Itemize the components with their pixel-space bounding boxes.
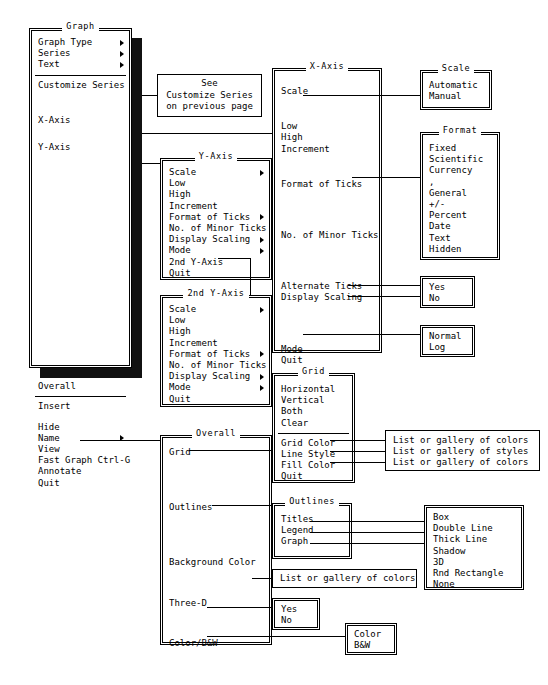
menu-item-format-date[interactable]: Date (422, 221, 498, 232)
menu-item-format-scientific[interactable]: Scientific (422, 154, 498, 165)
menu-three-d-yesno[interactable]: Yes No (272, 598, 320, 630)
menu-item-text[interactable]: Text (31, 59, 130, 70)
menu-item-x-increment[interactable]: Increment (274, 144, 380, 155)
menu-2nd-y-axis[interactable]: 2nd Y-Axis Scale Low High Increment Form… (160, 295, 272, 407)
menu-item-outlines-titles[interactable]: Titles (274, 514, 350, 525)
menu-item-y2-quit[interactable]: Quit (162, 394, 270, 405)
menu-item-alt-ticks-yes[interactable]: Yes (422, 282, 473, 293)
menu-item-y-scale[interactable]: Scale (162, 167, 270, 178)
menu-item-x-low[interactable]: Low (274, 121, 380, 132)
menu-item-y-axis[interactable]: Y-Axis (31, 142, 130, 153)
menu-item-outline-shadow[interactable]: Shadow (426, 546, 522, 557)
menu-item-three-d-yes[interactable]: Yes (274, 604, 318, 615)
menu-item-y2-scale[interactable]: Scale (162, 304, 270, 315)
menu-item-format-currency[interactable]: Currency (422, 165, 498, 176)
menu-mode-normal-log[interactable]: Normal Log (420, 325, 475, 357)
menu-scale[interactable]: Scale Automatic Manual (420, 70, 492, 110)
menu-item-y-display-scaling[interactable]: Display Scaling (162, 234, 270, 245)
grid-target-fill-colors[interactable]: List or gallery of colors (386, 457, 539, 468)
menu-item-customize-series[interactable]: Customize Series (31, 80, 130, 91)
menu-item-outline-none[interactable]: None (426, 579, 522, 590)
menu-item-x-display-scaling[interactable]: Display Scaling (274, 292, 380, 303)
menu-format[interactable]: Format Fixed Scientific Currency , Gener… (420, 132, 500, 260)
menu-item-y-minor-ticks[interactable]: No. of Minor Ticks (162, 223, 270, 234)
menu-item-hide[interactable]: Hide (31, 422, 130, 433)
menu-item-three-d-no[interactable]: No (274, 615, 318, 626)
menu-item-grid-vertical[interactable]: Vertical (274, 395, 353, 406)
connector-overall-colorbw (207, 636, 272, 637)
menu-item-outline-box[interactable]: Box (426, 512, 522, 523)
menu-item-y-increment[interactable]: Increment (162, 201, 270, 212)
menu-item-format-plusminus[interactable]: +/- (422, 199, 498, 210)
menu-item-view[interactable]: View (31, 444, 130, 455)
menu-item-outline-rnd-rectangle[interactable]: Rnd Rectangle (426, 568, 522, 579)
menu-item-outlines-legend[interactable]: Legend (274, 525, 350, 536)
menu-item-series[interactable]: Series (31, 48, 130, 59)
grid-target-colors[interactable]: List or gallery of colors (386, 435, 539, 446)
menu-item-y2-low[interactable]: Low (162, 315, 270, 326)
menu-item-y2-minor-ticks[interactable]: No. of Minor Ticks (162, 360, 270, 371)
menu-item-format-hidden[interactable]: Hidden (422, 244, 498, 255)
menu-item-annotate[interactable]: Annotate (31, 466, 130, 477)
menu-item-mode-normal[interactable]: Normal (422, 331, 473, 342)
menu-color-bw[interactable]: Color B&W (345, 623, 397, 655)
menu-item-x-quit[interactable]: Quit (274, 355, 380, 366)
menu-x-axis[interactable]: X-Axis Scale Low High Increment Format o… (272, 68, 382, 353)
menu-y-axis[interactable]: Y-Axis Scale Low High Increment Format o… (160, 158, 272, 280)
menu-item-outline-thick-line[interactable]: Thick Line (426, 534, 522, 545)
menu-item-y2-high[interactable]: High (162, 326, 270, 337)
menu-item-outlines-graph[interactable]: Graph (274, 536, 350, 547)
menu-item-overall[interactable]: Overall (31, 381, 130, 392)
menu-item-grid-both[interactable]: Both (274, 406, 353, 417)
menu-grid[interactable]: Grid Horizontal Vertical Both Clear Grid… (272, 373, 355, 483)
menu-item-y2-mode[interactable]: Mode (162, 382, 270, 393)
menu-item-y-low[interactable]: Low (162, 178, 270, 189)
menu-outlines[interactable]: Outlines Titles Legend Graph (272, 503, 352, 559)
menu-item-format-general[interactable]: General (422, 188, 498, 199)
menu-item-scale-automatic[interactable]: Automatic (422, 80, 490, 91)
menu-item-x-mode[interactable]: Mode (274, 344, 380, 355)
menu-item-format-fixed[interactable]: Fixed (422, 143, 498, 154)
menu-item-x-format-of-ticks[interactable]: Format of Ticks (274, 179, 380, 190)
menu-item-graph-type[interactable]: Graph Type (31, 37, 130, 48)
menu-item-y-mode[interactable]: Mode (162, 245, 270, 256)
menu-item-fast-graph[interactable]: Fast Graph Ctrl-G (31, 455, 130, 466)
menu-item-alt-ticks-no[interactable]: No (422, 293, 473, 304)
menu-item-color[interactable]: Color (347, 629, 395, 640)
menu-item-y-format-of-ticks[interactable]: Format of Ticks (162, 212, 270, 223)
menu-item-y-high[interactable]: High (162, 189, 270, 200)
menu-item-x-alternate-ticks[interactable]: Alternate Ticks (274, 281, 380, 292)
menu-item-mode-log[interactable]: Log (422, 342, 473, 353)
menu-item-overall-background-color[interactable]: Background Color (162, 557, 270, 568)
menu-item-y2-display-scaling[interactable]: Display Scaling (162, 371, 270, 382)
menu-item-x-high[interactable]: High (274, 132, 380, 143)
menu-item-x-axis[interactable]: X-Axis (31, 115, 130, 126)
menu-item-overall-outlines[interactable]: Outlines (162, 502, 270, 513)
background-color-list[interactable]: List or gallery of colors (273, 573, 416, 584)
menu-item-y2-format-of-ticks[interactable]: Format of Ticks (162, 349, 270, 360)
menu-alternate-ticks-yesno[interactable]: Yes No (420, 276, 475, 308)
menu-item-format-comma[interactable]: , (422, 177, 498, 188)
menu-item-scale-manual[interactable]: Manual (422, 91, 490, 102)
menu-item-grid-quit[interactable]: Quit (274, 471, 353, 482)
grid-target-styles[interactable]: List or gallery of styles (386, 446, 539, 457)
menu-item-bw[interactable]: B&W (347, 640, 395, 651)
menu-overall[interactable]: Overall Grid Outlines Background Color T… (160, 435, 272, 645)
menu-outline-styles[interactable]: Box Double Line Thick Line Shadow 3D Rnd… (424, 505, 524, 590)
menu-item-y-quit[interactable]: Quit (162, 268, 270, 279)
menu-item-grid-clear[interactable]: Clear (274, 418, 353, 429)
menu-item-quit[interactable]: Quit (31, 478, 130, 489)
menu-item-x-minor-ticks[interactable]: No. of Minor Ticks (274, 230, 380, 241)
menu-item-y2-increment[interactable]: Increment (162, 338, 270, 349)
menu-item-name[interactable]: Name (31, 433, 130, 444)
menu-graph[interactable]: Graph Graph Type Series Text Customize S… (29, 28, 132, 368)
menu-item-insert[interactable]: Insert (31, 401, 130, 412)
menu-item-grid-horizontal[interactable]: Horizontal (274, 384, 353, 395)
menu-item-overall-grid[interactable]: Grid (162, 447, 270, 458)
menu-item-outline-3d[interactable]: 3D (426, 557, 522, 568)
menu-item-format-text[interactable]: Text (422, 233, 498, 244)
menu-item-outline-double-line[interactable]: Double Line (426, 523, 522, 534)
menu-item-format-percent[interactable]: Percent (422, 210, 498, 221)
menu-item-y-2nd-y-axis[interactable]: 2nd Y-Axis (162, 257, 270, 268)
menu-item-overall-color-bw[interactable]: Color/B&W (162, 638, 270, 649)
